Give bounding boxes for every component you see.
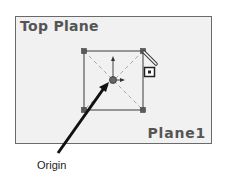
sketch-diagram bbox=[0, 0, 225, 184]
handle-bottom-right bbox=[141, 108, 146, 113]
sketch-relation-icon bbox=[145, 68, 155, 77]
pencil-icon bbox=[144, 52, 156, 64]
handle-top-left bbox=[82, 49, 87, 54]
origin-icon[interactable] bbox=[110, 56, 126, 84]
origin-callout-label: Origin bbox=[37, 159, 66, 171]
